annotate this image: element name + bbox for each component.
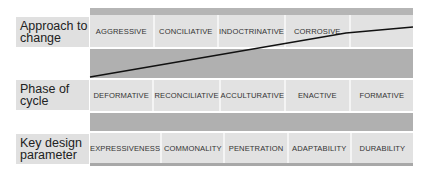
trend-line-svg <box>0 0 427 177</box>
trend-line <box>90 27 413 77</box>
